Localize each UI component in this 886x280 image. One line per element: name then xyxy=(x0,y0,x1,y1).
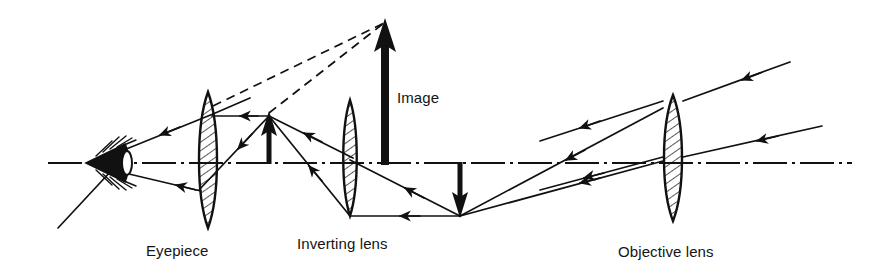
dashed-line-from-eyepiece-top xyxy=(213,23,384,106)
labels-group: Eyepiece Inverting lens Objective lens I… xyxy=(146,89,714,260)
eyepiece-lens xyxy=(199,92,217,228)
ray-objective-upper-incoming xyxy=(683,62,790,101)
ray-erect-to-eyepiece-lower-head xyxy=(238,134,252,149)
inverted-image-arrow xyxy=(452,162,468,218)
ray-inverting-to-erect-upper-head xyxy=(304,133,322,142)
dashed-line-from-erect-image-tip xyxy=(269,23,384,113)
ray-eyepiece-to-eye-lower-head xyxy=(176,185,196,190)
virtual-image-arrow-shaft xyxy=(381,40,389,165)
ray-eye-extension-lower-left xyxy=(58,170,112,228)
intermediate-erect-image-arrow-shaft xyxy=(267,128,272,164)
objective-lens xyxy=(664,95,682,221)
eye-pupil xyxy=(122,151,132,175)
ray-inverting-to-erect-lower-head xyxy=(309,166,322,181)
ray-objective-left-upper-ext-head xyxy=(580,121,600,128)
ray-inverted-to-inverting-upper-head xyxy=(405,188,424,198)
ray-eye-extension-upper-right xyxy=(213,98,250,114)
objective-lens-label: Objective lens xyxy=(618,243,714,260)
eyepiece-lens-body xyxy=(199,92,217,228)
image-label: Image xyxy=(397,89,439,106)
ray-objective-upper-incoming-head xyxy=(742,73,760,80)
ray-objective-axis-through xyxy=(460,161,663,216)
ray-objective-upper-through-head xyxy=(566,150,585,160)
inverting-lens-body xyxy=(343,100,357,216)
virtual-image-arrow xyxy=(374,18,396,165)
optical-ray-diagram: Eyepiece Inverting lens Objective lens I… xyxy=(0,0,886,280)
ray-eyepiece-to-eye-upper-head xyxy=(160,127,180,135)
inverted-image-arrow-shaft xyxy=(458,162,463,200)
ray-paths-group xyxy=(58,62,822,228)
image-arrows-group xyxy=(261,18,468,218)
ray-objective-lower-incoming-head xyxy=(757,136,778,141)
inverting-lens xyxy=(343,100,357,216)
inverting-lens-label: Inverting lens xyxy=(297,235,388,252)
eyepiece-label: Eyepiece xyxy=(146,242,209,259)
objective-lens-body xyxy=(664,95,682,221)
diagram-canvas: Eyepiece Inverting lens Objective lens I… xyxy=(0,0,886,280)
construction-lines-group xyxy=(213,23,384,113)
ray-objective-lower-incoming xyxy=(683,126,822,157)
observer-eye xyxy=(86,136,136,190)
ray-objective-left-upper-ext xyxy=(540,101,663,141)
